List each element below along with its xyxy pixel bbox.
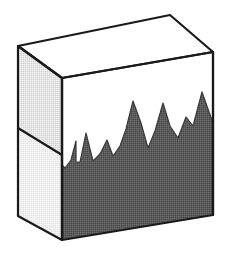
figure-root: Isometric box with jagged fill level <box>0 0 229 257</box>
isometric-box-illustration <box>0 0 229 257</box>
